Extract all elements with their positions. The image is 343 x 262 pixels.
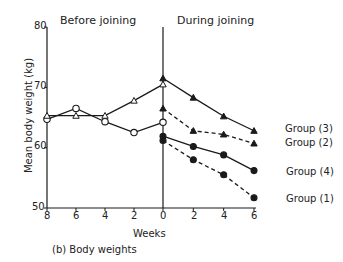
panel-title-during: During joining — [177, 14, 254, 27]
x-tick-8: 8 — [44, 210, 50, 221]
chart-caption: (b) Body weights — [52, 244, 137, 255]
data-point-before-open-circles — [73, 105, 79, 111]
legend-group-2: Group (2) — [285, 137, 333, 148]
data-point-before-open-circles — [131, 129, 137, 135]
y-tick-60: 60 — [34, 140, 47, 151]
data-point-group-4 — [190, 143, 196, 149]
data-point-before-open-circles — [160, 119, 166, 125]
x-tick-2-before: 2 — [131, 210, 137, 221]
data-point-group-3 — [251, 128, 257, 134]
x-tick-2-during: 2 — [191, 210, 197, 221]
data-point-group-4 — [221, 152, 227, 158]
x-tick-4-during: 4 — [221, 210, 227, 221]
data-point-group-2 — [251, 140, 257, 146]
data-point-group-4 — [251, 168, 257, 174]
x-axis-label: Weeks — [133, 228, 166, 239]
data-point-group-3 — [190, 94, 196, 100]
data-point-group-2 — [190, 128, 196, 134]
series-line-group-4 — [163, 136, 254, 170]
x-tick-4-before: 4 — [102, 210, 108, 221]
panel-title-before: Before joining — [60, 14, 136, 27]
data-point-group-1 — [251, 195, 257, 201]
data-point-group-3 — [160, 75, 166, 81]
data-point-group-1 — [221, 172, 227, 178]
series-line-group-3 — [163, 78, 254, 130]
data-point-before-open-circles — [102, 119, 108, 125]
data-point-before-open-triangles — [131, 97, 137, 103]
series-line-before-open-triangles — [47, 84, 163, 115]
x-tick-0: 0 — [160, 210, 166, 221]
legend-group-3: Group (3) — [285, 123, 333, 134]
y-tick-50: 50 — [32, 201, 45, 212]
x-tick-6-during: 6 — [251, 210, 257, 221]
data-point-group-3 — [220, 113, 226, 119]
series-line-group-1 — [163, 140, 254, 197]
series-line-group-2 — [163, 108, 254, 143]
y-axis-label: Mean body weight (kg) — [23, 46, 34, 186]
data-point-group-1 — [160, 137, 166, 143]
data-point-group-1 — [190, 157, 196, 163]
legend-group-4: Group (4) — [286, 166, 334, 177]
data-point-group-2 — [160, 105, 166, 111]
data-point-before-open-triangles — [160, 81, 166, 87]
y-tick-80: 80 — [34, 20, 47, 31]
x-tick-6-before: 6 — [73, 210, 79, 221]
y-tick-70: 70 — [34, 80, 47, 91]
legend-group-1: Group (1) — [286, 193, 334, 204]
